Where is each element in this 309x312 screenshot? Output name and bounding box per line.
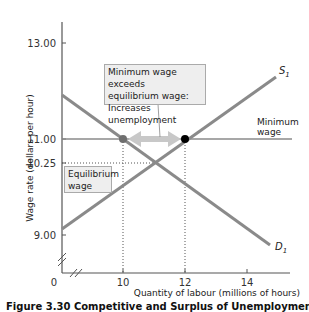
chart: 13.00 11.00 10.25 9.00 0 10 12 14 Wage r… [0, 0, 309, 300]
x-tick-12: 12 [179, 277, 192, 288]
guide-lines [62, 139, 185, 273]
x-axis-title: Quantity of labour (millions of hours) [134, 288, 300, 298]
y-axis-title: Wage rate (dollars per hour) [25, 94, 35, 222]
x-tick-0: 0 [51, 277, 57, 288]
equilibrium-wage-note: Equilibrium wage [64, 166, 112, 193]
supply-label: S1 [279, 65, 290, 79]
y-tick-9: 9.00 [34, 230, 56, 241]
x-tick-14: 14 [241, 277, 254, 288]
minimum-wage-label-1: Minimum [257, 117, 299, 127]
note-line: equilibrium wage: [108, 90, 202, 102]
note-line: Minimum wage exceeds [108, 66, 202, 90]
note-line: Increases unemployment [108, 102, 202, 126]
minimum-wage-note: Minimum wage exceeds equilibrium wage: I… [104, 64, 206, 105]
quantity-supplied-point [181, 135, 189, 143]
unemployment-arrow [128, 131, 181, 147]
quantity-demanded-point [119, 135, 127, 143]
note-line: wage [68, 180, 108, 192]
demand-label: D1 [275, 241, 287, 255]
figure-caption: Figure 3.30 Competitive and Surplus of U… [6, 301, 309, 312]
minimum-wage-label-2: wage [257, 127, 282, 137]
x-tick-10: 10 [117, 277, 130, 288]
y-tick-13: 13.00 [27, 38, 56, 49]
note-line: Equilibrium [68, 168, 108, 180]
